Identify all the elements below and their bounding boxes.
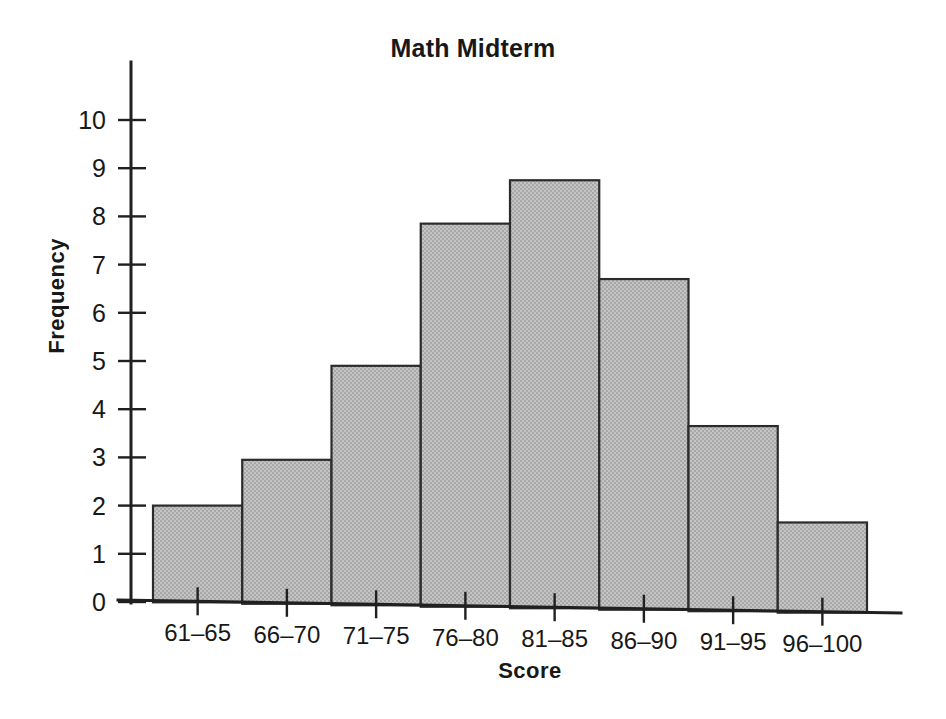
y-tick-label: 8 <box>60 202 106 231</box>
histogram-bar <box>599 279 688 610</box>
y-tick-label: 3 <box>60 443 106 472</box>
x-tick-label: 86–90 <box>611 627 678 655</box>
y-tick-label: 9 <box>60 154 106 183</box>
x-tick-label: 81–85 <box>521 625 588 653</box>
x-tick-label: 61–65 <box>164 619 231 647</box>
histogram-bar <box>510 180 599 608</box>
y-tick-label: 0 <box>60 588 106 617</box>
y-tick-label: 6 <box>60 298 106 327</box>
y-tick-label: 2 <box>60 491 106 520</box>
y-tick-label: 10 <box>60 106 106 135</box>
histogram-bar <box>421 224 510 607</box>
histogram-bar <box>242 460 331 604</box>
x-tick-label: 76–80 <box>432 624 499 652</box>
x-tick-label: 66–70 <box>254 621 321 649</box>
x-tick-label: 96–100 <box>782 630 862 658</box>
plot-area <box>0 0 946 719</box>
x-tick-label: 91–95 <box>700 628 767 656</box>
y-tick-label: 5 <box>60 347 106 376</box>
bars-group <box>153 180 867 612</box>
histogram-figure: Math Midterm Frequency Score 01234567891… <box>0 0 946 719</box>
x-tick-label: 71–75 <box>343 622 410 650</box>
y-tick-label: 7 <box>60 250 106 279</box>
y-tick-label: 1 <box>60 539 106 568</box>
y-tick-label: 4 <box>60 395 106 424</box>
histogram-bar <box>332 366 421 605</box>
histogram-bar <box>689 426 778 611</box>
